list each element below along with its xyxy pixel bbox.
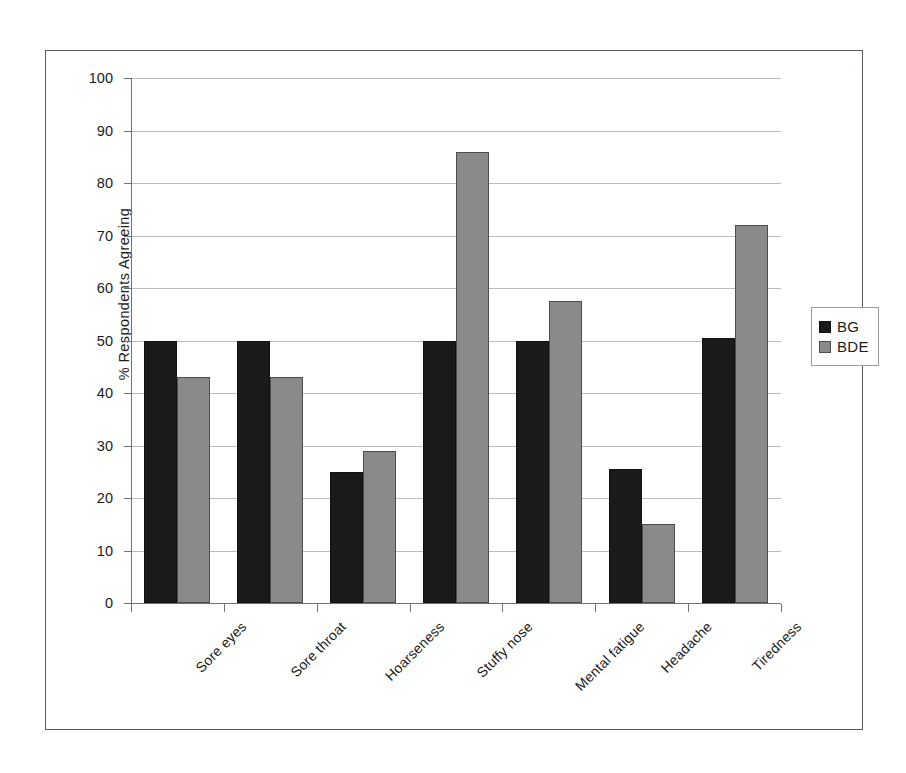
- bar-bde-sore-eyes[interactable]: [177, 377, 210, 603]
- y-tick-label: 10: [97, 543, 113, 559]
- bar-bg-stuffy-nose[interactable]: [423, 341, 456, 604]
- y-tick-mark: [124, 393, 132, 394]
- x-tick-mark: [595, 604, 596, 612]
- legend-item-bg[interactable]: BG: [819, 318, 869, 335]
- bar-bg-tiredness[interactable]: [702, 338, 735, 603]
- y-tick-label: 30: [97, 438, 113, 454]
- bar-bde-mental-fatigue[interactable]: [549, 301, 582, 603]
- gridline: [131, 78, 781, 79]
- bar-bg-sore-throat[interactable]: [237, 341, 270, 604]
- x-tick-mark: [224, 604, 225, 612]
- legend-label-bg: BG: [837, 318, 859, 335]
- bar-bg-mental-fatigue[interactable]: [516, 341, 549, 604]
- y-tick-label: 20: [97, 490, 113, 506]
- legend-swatch-bde-icon: [819, 341, 831, 353]
- bar-bg-sore-eyes[interactable]: [144, 341, 177, 604]
- y-tick-label: 90: [97, 123, 113, 139]
- y-tick-label: 0: [105, 595, 113, 611]
- bar-bde-hoarseness[interactable]: [363, 451, 396, 603]
- y-tick-mark: [124, 341, 132, 342]
- y-tick-mark: [124, 498, 132, 499]
- bar-bde-stuffy-nose[interactable]: [456, 152, 489, 604]
- gridline: [131, 131, 781, 132]
- bar-bg-headache[interactable]: [609, 469, 642, 603]
- plot-area: [131, 78, 781, 603]
- y-tick-label: 50: [97, 333, 113, 349]
- y-tick-mark: [124, 236, 132, 237]
- y-tick-mark: [124, 78, 132, 79]
- bar-bde-headache[interactable]: [642, 524, 675, 603]
- y-tick-label: 100: [89, 70, 113, 86]
- y-tick-mark: [124, 131, 132, 132]
- x-tick-mark: [410, 604, 411, 612]
- y-tick-mark: [124, 446, 132, 447]
- bar-bde-sore-throat[interactable]: [270, 377, 303, 603]
- x-axis-label-sore-eyes: Sore eyes: [193, 618, 250, 675]
- y-axis-title: % Respondents Agreeing: [116, 164, 132, 424]
- x-tick-mark: [317, 604, 318, 612]
- chart-legend: BG BDE: [811, 307, 879, 366]
- y-tick-mark: [124, 551, 132, 552]
- x-axis-label-hoarseness: Hoarseness: [382, 618, 448, 684]
- y-tick-mark: [124, 183, 132, 184]
- x-tick-mark: [502, 604, 503, 612]
- y-tick-label: 40: [97, 385, 113, 401]
- chart-figure-frame: % Respondents Agreeing 10090807060504030…: [45, 50, 863, 730]
- bar-bde-tiredness[interactable]: [735, 225, 768, 603]
- y-tick-mark: [124, 288, 132, 289]
- x-tick-mark: [688, 604, 689, 612]
- y-tick-label: 70: [97, 228, 113, 244]
- y-tick-label: 80: [97, 175, 113, 191]
- x-axis-label-stuffy-nose: Stuffy nose: [473, 618, 535, 680]
- legend-swatch-bg-icon: [819, 321, 831, 333]
- x-axis-label-headache: Headache: [657, 618, 715, 676]
- x-axis-label-tiredness: Tiredness: [749, 618, 805, 674]
- x-axis-label-sore-throat: Sore throat: [287, 618, 349, 680]
- x-tick-mark: [781, 604, 782, 612]
- bar-bg-hoarseness[interactable]: [330, 472, 363, 603]
- gridline: [131, 603, 781, 604]
- x-axis-label-mental-fatigue: Mental fatigue: [572, 618, 647, 693]
- legend-label-bde: BDE: [837, 338, 869, 355]
- y-tick-label: 60: [97, 280, 113, 296]
- x-tick-mark: [131, 604, 132, 612]
- legend-item-bde[interactable]: BDE: [819, 338, 869, 355]
